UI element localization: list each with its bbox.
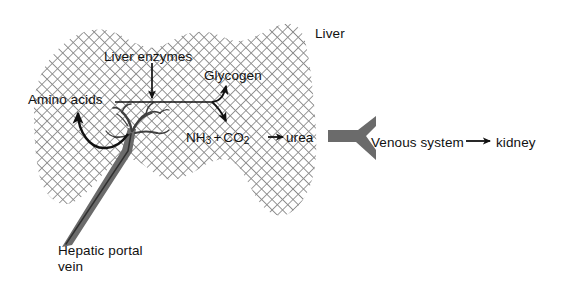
venous-system-vessel xyxy=(328,116,376,160)
label-ammonia-carbon-dioxide: NH3+CO2 xyxy=(186,130,249,147)
label-amino-acids: Amino acids xyxy=(28,92,103,108)
label-glycogen: Glycogen xyxy=(204,68,262,84)
label-ammonia: NH xyxy=(186,130,206,145)
label-hepatic-portal-vein-line2: vein xyxy=(58,259,83,274)
label-hepatic-portal-vein: Hepatic portal vein xyxy=(58,243,143,275)
label-hepatic-portal-vein-line1: Hepatic portal xyxy=(58,243,143,258)
label-urea: urea xyxy=(286,130,313,146)
liver-metabolism-diagram: Liver Liver enzymes Glycogen Amino acids… xyxy=(0,0,580,291)
label-liver: Liver xyxy=(315,26,345,42)
label-carbon-dioxide: CO xyxy=(223,130,243,145)
label-kidney: kidney xyxy=(496,135,536,151)
label-venous-system: Venous system xyxy=(371,135,464,151)
venous-vessel-shape xyxy=(328,116,376,160)
label-carbon-dioxide-subscript: 2 xyxy=(244,135,250,146)
label-liver-enzymes: Liver enzymes xyxy=(104,49,192,65)
label-plus: + xyxy=(211,130,223,145)
